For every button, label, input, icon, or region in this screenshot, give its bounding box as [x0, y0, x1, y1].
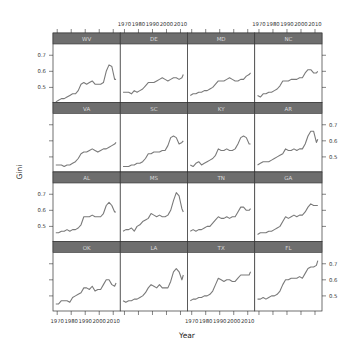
- panel-la: LA: [120, 242, 187, 312]
- x-tick-label: 2000: [227, 318, 241, 324]
- strip-label: MD: [217, 36, 226, 42]
- x-tick-label: 2000: [160, 21, 174, 27]
- strip-label: LA: [150, 245, 157, 251]
- panel-al: AL: [53, 172, 120, 242]
- strip-label: TX: [217, 245, 225, 251]
- y-tick-label: 0.7: [38, 191, 46, 197]
- x-tick-label: 1980: [64, 318, 78, 324]
- lattice-chart: WVDEMDNCVASCKYARALMSTNGAOKLATXFL 1970198…: [0, 0, 355, 356]
- panel-va: VA: [53, 103, 120, 173]
- y-tick-label: 0.6: [329, 138, 338, 144]
- x-tick-label: 1990: [280, 21, 294, 27]
- x-tick-label: 2010: [174, 21, 188, 27]
- strip-label: TN: [216, 175, 224, 181]
- y-tick-label: 0.6: [329, 277, 338, 283]
- strip-label: MS: [150, 175, 159, 181]
- panel-de: DE: [120, 33, 187, 103]
- x-tick-label: 1970: [50, 318, 64, 324]
- y-tick-label: 0.6: [38, 207, 47, 213]
- strip-label: NC: [284, 36, 292, 42]
- x-tick-label: 2010: [308, 21, 322, 27]
- panel-ky: KY: [188, 103, 255, 173]
- panel-nc: NC: [255, 33, 322, 103]
- x-tick-label: 1980: [132, 21, 146, 27]
- y-tick-label: 0.7: [329, 261, 337, 267]
- strip-label: AL: [83, 175, 91, 181]
- x-tick-label: 2000: [92, 318, 106, 324]
- strip-label: FL: [285, 245, 292, 251]
- x-tick-label: 2010: [107, 318, 121, 324]
- panel-md: MD: [188, 33, 255, 103]
- x-axis-label: Year: [178, 331, 196, 340]
- y-tick-label: 0.7: [38, 52, 46, 58]
- strip-label: OK: [83, 245, 91, 251]
- panel-wv: WV: [53, 33, 120, 103]
- strip-label: WV: [82, 36, 91, 42]
- strip-label: VA: [83, 106, 90, 112]
- y-tick-label: 0.5: [329, 154, 337, 160]
- x-tick-label: 1990: [146, 21, 160, 27]
- panels-group: WVDEMDNCVASCKYARALMSTNGAOKLATXFL: [53, 33, 322, 311]
- x-tick-label: 1990: [213, 318, 227, 324]
- y-tick-label: 0.5: [38, 223, 46, 229]
- panel-ok: OK: [53, 242, 120, 312]
- y-tick-label: 0.5: [38, 84, 46, 90]
- x-tick-label: 1970: [185, 318, 199, 324]
- panel-sc: SC: [120, 103, 187, 173]
- x-tick-label: 1980: [199, 318, 213, 324]
- y-tick-label: 0.6: [38, 68, 47, 74]
- y-tick-label: 0.7: [329, 122, 337, 128]
- x-tick-label: 1990: [78, 318, 92, 324]
- panel-tx: TX: [188, 242, 255, 312]
- y-tick-label: 0.5: [329, 293, 337, 299]
- strip-label: AR: [285, 106, 293, 112]
- panel-ms: MS: [120, 172, 187, 242]
- x-tick-label: 1970: [118, 21, 132, 27]
- panel-tn: TN: [188, 172, 255, 242]
- x-tick-label: 2000: [294, 21, 308, 27]
- panel-ar: AR: [255, 103, 322, 173]
- x-tick-label: 2010: [241, 318, 255, 324]
- panel-ga: GA: [255, 172, 322, 242]
- panel-fl: FL: [255, 242, 322, 312]
- x-tick-label: 1980: [266, 21, 280, 27]
- strip-label: GA: [284, 175, 292, 181]
- strip-label: DE: [150, 36, 158, 42]
- strip-label: SC: [150, 106, 157, 112]
- y-axis-label: Gini: [15, 165, 24, 180]
- strip-label: KY: [218, 106, 225, 112]
- x-tick-label: 1970: [252, 21, 266, 27]
